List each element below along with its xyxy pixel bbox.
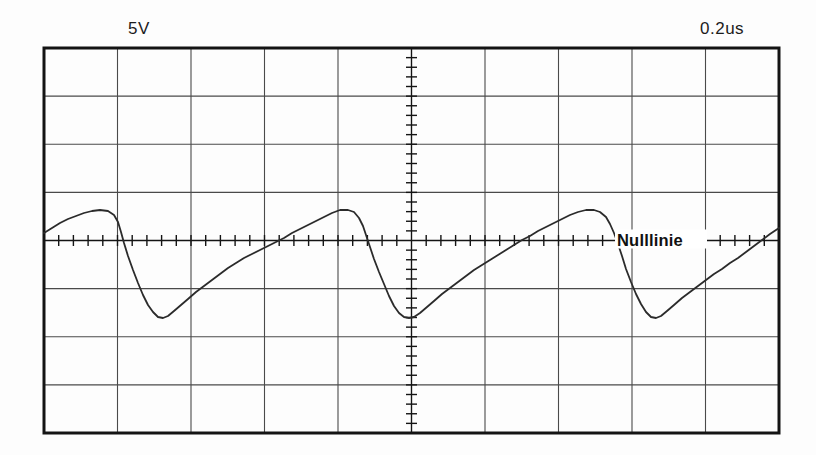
oscilloscope-graticule-and-trace: Nulllinie <box>0 0 816 455</box>
oscilloscope-screenshot: 5V 0.2us Nulllinie <box>0 0 816 455</box>
nulllinie-annotation: Nulllinie <box>615 230 707 250</box>
nulllinie-label: Nulllinie <box>617 231 683 249</box>
